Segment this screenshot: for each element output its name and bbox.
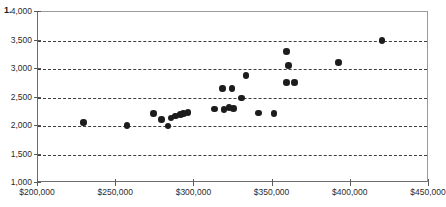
data-point xyxy=(283,48,290,55)
x-axis-tick-label: $200,000 xyxy=(19,187,54,197)
gridline-y xyxy=(38,69,427,70)
data-point xyxy=(291,79,298,86)
data-point xyxy=(150,110,157,117)
list-item-marker: 1. xyxy=(4,5,12,15)
y-axis-tick-label: 3,500 xyxy=(3,35,32,45)
data-point xyxy=(229,85,236,92)
data-point xyxy=(219,85,226,92)
y-axis-tick-label: 2,500 xyxy=(3,92,32,102)
data-point xyxy=(165,123,172,130)
data-point xyxy=(335,59,342,66)
gridline-y xyxy=(38,126,427,127)
data-point xyxy=(211,106,218,113)
x-axis-tick-label: $250,000 xyxy=(97,187,132,197)
y-axis-tick-label: 2,000 xyxy=(3,120,32,130)
x-axis-tick-label: $400,000 xyxy=(332,187,367,197)
data-point xyxy=(271,110,278,117)
y-axis-tick-label: 1,500 xyxy=(3,149,32,159)
x-axis-tick xyxy=(428,179,429,186)
y-axis-tick-label: 1,000 xyxy=(3,177,32,187)
plot-area xyxy=(37,11,428,182)
y-axis-tick-label: 3,000 xyxy=(3,63,32,73)
data-point xyxy=(158,116,165,123)
data-point xyxy=(230,105,237,112)
gridline-y xyxy=(38,98,427,99)
data-point xyxy=(285,62,292,69)
x-axis-tick-label: $450,000 xyxy=(410,187,445,197)
gridline-y xyxy=(38,41,427,42)
x-axis-tick-label: $300,000 xyxy=(176,187,211,197)
data-point xyxy=(243,72,250,79)
data-point xyxy=(124,122,131,129)
x-axis-tick-label: $350,000 xyxy=(254,187,289,197)
data-point xyxy=(379,37,386,44)
gridline-y xyxy=(38,155,427,156)
data-point xyxy=(283,79,290,86)
data-point xyxy=(255,110,262,117)
data-point xyxy=(185,109,192,116)
data-point xyxy=(80,119,87,126)
data-point xyxy=(238,95,245,102)
y-axis-tick xyxy=(34,182,41,183)
